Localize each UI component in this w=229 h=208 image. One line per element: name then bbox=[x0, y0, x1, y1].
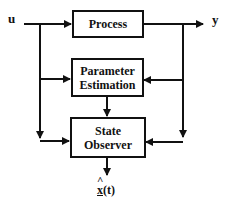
state-observer-line1: State bbox=[95, 124, 121, 138]
state-estimate-suffix: (t) bbox=[103, 183, 115, 197]
state-estimate-label: x^(t) bbox=[97, 183, 115, 198]
process-label: Process bbox=[89, 17, 127, 31]
parameter-estimation-line2: Estimation bbox=[79, 78, 135, 92]
input-label-u: u bbox=[8, 11, 15, 27]
parameter-estimation-block: Parameter Estimation bbox=[71, 58, 144, 97]
block-diagram: u y Process Parameter Estimation State O… bbox=[0, 0, 229, 208]
process-block: Process bbox=[72, 10, 144, 38]
state-observer-block: State Observer bbox=[70, 117, 146, 158]
parameter-estimation-line1: Parameter bbox=[80, 64, 135, 78]
output-label-y: y bbox=[212, 12, 219, 28]
hat-accent: ^ bbox=[97, 174, 103, 186]
state-observer-line2: Observer bbox=[84, 138, 132, 152]
